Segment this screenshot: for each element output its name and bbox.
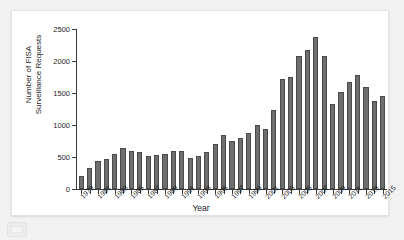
bar (112, 154, 117, 189)
bar (271, 110, 276, 189)
bar (322, 56, 327, 189)
bar (347, 82, 352, 189)
y-axis-tick-labels: 05001000150020002500 (40, 11, 70, 217)
y-tick-label: 2500 (40, 25, 70, 34)
y-tick-label: 2000 (40, 57, 70, 66)
corner-widget-inner (11, 226, 23, 233)
bar (146, 156, 151, 189)
bar (372, 101, 377, 189)
y-tick-label: 1500 (40, 89, 70, 98)
bar (296, 56, 301, 189)
bar (221, 135, 226, 189)
chart-card: Number of FISA Surveillance Requests 050… (11, 10, 389, 216)
bar (280, 79, 285, 189)
y-tick-label: 500 (40, 153, 70, 162)
bar (288, 77, 293, 190)
screenshot-root: Number of FISA Surveillance Requests 050… (0, 0, 404, 240)
bar (255, 125, 260, 189)
bar (246, 133, 251, 189)
bar (330, 104, 335, 189)
bar (305, 50, 310, 189)
corner-widget-icon (7, 222, 27, 237)
bar (380, 96, 385, 189)
bar (179, 151, 184, 189)
bar (95, 161, 100, 189)
bar (338, 92, 343, 189)
y-axis-title-line1: Number of FISA (24, 10, 34, 140)
bar-series (77, 29, 387, 189)
bar (162, 154, 167, 189)
bar (355, 75, 360, 189)
bar (213, 144, 218, 189)
bar (79, 176, 84, 189)
bar (263, 129, 268, 189)
bar (120, 148, 125, 189)
bar (196, 156, 201, 189)
bar-chart: Number of FISA Surveillance Requests 050… (12, 11, 390, 217)
bar (229, 141, 234, 189)
bar (129, 151, 134, 189)
y-tick-label: 0 (40, 185, 70, 194)
bar (238, 138, 243, 189)
bar (313, 37, 318, 189)
y-tick-label: 1000 (40, 121, 70, 130)
bar (363, 87, 368, 189)
x-axis-title: Year (12, 203, 390, 213)
